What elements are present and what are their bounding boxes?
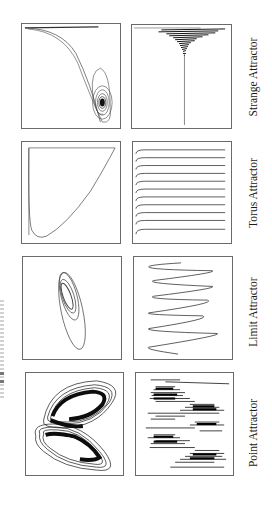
limit-time-series — [133, 256, 233, 360]
torus-phase-portrait — [21, 141, 121, 244]
row-label-limit-attractor: Limit Attractor — [246, 257, 260, 367]
row-label-point-attractor: Point Attractor — [246, 378, 260, 488]
cropped-caption-fragment — [0, 300, 4, 400]
torus-time-series — [132, 141, 232, 244]
row-label-torus-attractor: Torus Attractor — [246, 138, 260, 248]
point-time-series — [135, 372, 234, 476]
point-phase-portrait — [25, 372, 124, 476]
limit-phase-portrait — [22, 256, 122, 360]
strange-time-series — [131, 24, 232, 129]
strange-phase-portrait — [21, 23, 121, 129]
row-label-strange-attractor: Strange Attractor — [246, 22, 260, 132]
